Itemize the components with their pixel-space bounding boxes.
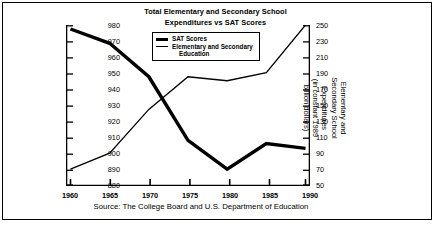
- x-tick-label: 1960: [53, 191, 87, 200]
- legend-swatch-thick-icon: [156, 38, 168, 41]
- right-axis-title: Elementary and Secondary School Expendit…: [348, 33, 438, 107]
- right-tick-label: 110: [316, 134, 338, 141]
- right-tick-label: 170: [316, 86, 338, 93]
- right-tick-label: 230: [316, 38, 338, 45]
- right-tick-label: 50: [316, 182, 338, 189]
- legend-label: Elementary and Secondary: [172, 43, 253, 50]
- right-tick-label: 90: [316, 150, 338, 157]
- legend-swatch-thin-icon: [156, 46, 168, 47]
- x-tick-label: 1990: [293, 191, 327, 200]
- right-tick-label: 130: [316, 118, 338, 125]
- x-tick-label: 1970: [133, 191, 167, 200]
- chart-frame: Total Elementary and Secondary School Ex…: [2, 2, 432, 220]
- legend-item-elementary-and-secondary-education: Elementary and Secondary: [156, 43, 256, 51]
- right-tick-label: 190: [316, 70, 338, 77]
- legend-item-sat-scores: SAT Scores: [156, 35, 256, 43]
- right-axis-title-line-1: Elementary and: [339, 33, 348, 183]
- right-tick-label: 210: [316, 54, 338, 61]
- right-tick-label: 250: [316, 22, 338, 29]
- x-tick-label: 1975: [173, 191, 207, 200]
- x-tick-label: 1965: [93, 191, 127, 200]
- chart-legend: SAT Scores Elementary and Secondary Educ…: [152, 32, 260, 61]
- legend-label: SAT Scores: [172, 35, 207, 42]
- right-tick-label: 70: [316, 166, 338, 173]
- chart-title-line-1: Total Elementary and Secondary School: [98, 7, 333, 18]
- x-tick-label: 1980: [213, 191, 247, 200]
- legend-label-continuation: Education: [156, 50, 256, 58]
- source-note: Source: The College Board and U.S. Depar…: [3, 202, 399, 211]
- right-tick-label: 150: [316, 102, 338, 109]
- x-tick-label: 1985: [253, 191, 287, 200]
